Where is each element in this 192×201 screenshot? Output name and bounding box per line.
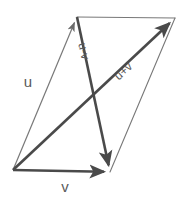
vector-u-minus-v-line: [77, 17, 109, 165]
vector-u-plus-v-line: [13, 23, 170, 170]
parallelogram-right-edge: [110, 18, 175, 172]
label-u-plus-v: u+v: [111, 59, 135, 83]
vector-diagram-figure: u v u-v u+v: [0, 0, 192, 201]
label-u-minus-v: u-v: [75, 42, 92, 61]
vector-v-line: [13, 170, 104, 172]
label-v: v: [61, 178, 69, 195]
vector-parallelogram-svg: u v u-v u+v: [0, 0, 192, 201]
vector-u-line: [13, 23, 75, 171]
label-u: u: [24, 73, 32, 90]
parallelogram-top-edge: [77, 17, 175, 18]
